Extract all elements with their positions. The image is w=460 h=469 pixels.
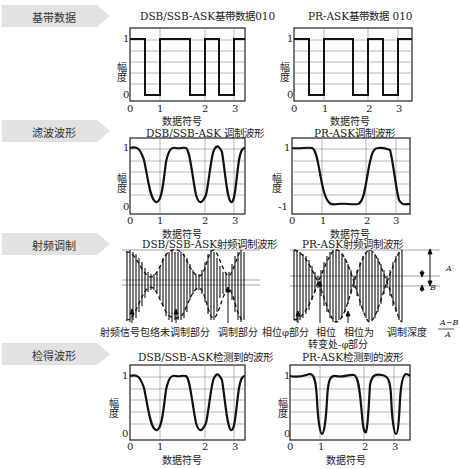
- waveform-diagram: [0, 0, 460, 469]
